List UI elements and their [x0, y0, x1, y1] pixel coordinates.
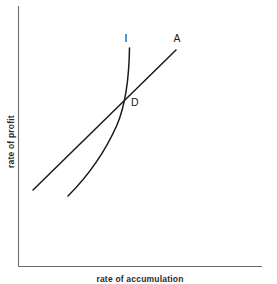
x-axis-title: rate of accumulation [96, 274, 183, 284]
chart-canvas: I A D rate of profit rate of accumulatio… [0, 0, 277, 284]
y-axis-title: rate of profit [6, 115, 16, 168]
curve-label-i: I [125, 32, 128, 44]
curve-a-line [33, 50, 176, 190]
curve-i-line [68, 48, 130, 196]
chart-figure: I A D rate of profit rate of accumulatio… [0, 0, 277, 284]
curve-label-a: A [173, 32, 180, 44]
point-label-d: D [131, 96, 139, 108]
